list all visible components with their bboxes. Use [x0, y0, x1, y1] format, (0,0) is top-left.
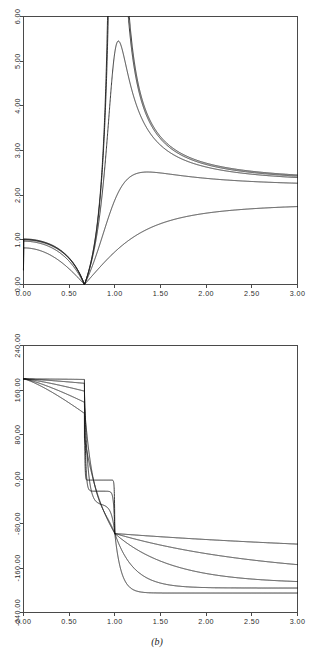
- figure-background: [0, 0, 315, 653]
- x-tick-label: 1.00: [107, 617, 123, 626]
- y-tick-label: 1.00: [13, 232, 22, 248]
- y-tick-label: 80.00: [13, 425, 22, 445]
- y-tick-label: 3.00: [13, 143, 22, 159]
- y-tick-label: 160.00: [13, 378, 22, 402]
- figure-two-panel-frequency-response: 0.000.501.001.502.002.503.000.001.002.00…: [0, 0, 315, 653]
- x-tick-label: 3.00: [290, 617, 306, 626]
- y-tick-label: 2.00: [13, 187, 22, 203]
- figure-caption: (b): [151, 636, 163, 648]
- y-tick-label: -160.00: [13, 554, 22, 581]
- x-tick-label: 2.50: [244, 289, 260, 298]
- x-tick-label: 2.50: [244, 617, 260, 626]
- y-tick-label: 0.00: [13, 471, 22, 487]
- x-tick-label: 3.00: [290, 289, 306, 298]
- y-tick-label: 240.00: [13, 333, 22, 357]
- x-tick-label: 1.00: [107, 289, 123, 298]
- x-tick-label: 2.00: [198, 617, 214, 626]
- y-tick-label: 6.00: [13, 9, 22, 25]
- x-tick-label: 0.50: [61, 617, 77, 626]
- y-tick-label: 5.00: [13, 53, 22, 69]
- x-tick-label: 1.50: [153, 617, 169, 626]
- x-tick-label: 1.50: [153, 289, 169, 298]
- y-tick-label: 0.00: [13, 277, 22, 293]
- y-tick-label: -80.00: [13, 512, 22, 535]
- x-tick-label: 2.00: [198, 289, 214, 298]
- y-tick-label: 4.00: [13, 98, 22, 114]
- y-tick-label: -240.00: [13, 599, 22, 626]
- x-tick-label: 0.50: [61, 289, 77, 298]
